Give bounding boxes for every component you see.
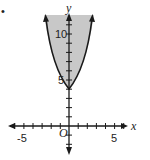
x-tick-label-5: 5 <box>111 132 117 144</box>
y-tick-label-5: 5 <box>58 74 64 86</box>
graph: • <box>0 0 150 160</box>
x-axis-label: x <box>130 119 137 133</box>
y-tick-label-10: 10 <box>55 28 67 40</box>
x-tick-label-neg5: -5 <box>17 132 27 144</box>
y-axis-label: y <box>65 1 72 15</box>
x-axis-right-arrow-icon <box>121 123 128 129</box>
origin-label: O <box>59 126 68 140</box>
x-axis-left-arrow-icon <box>8 123 15 129</box>
y-axis-down-arrow-icon <box>66 147 72 155</box>
bullet-marker: • <box>1 5 5 17</box>
